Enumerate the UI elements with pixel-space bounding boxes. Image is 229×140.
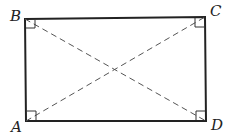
right-angle-mark-d (196, 111, 205, 120)
vertex-label-c: C (210, 2, 222, 20)
vertex-label-d: D (210, 116, 223, 134)
rectangle-diagram: B C A D (0, 0, 229, 140)
right-angle-mark-c (195, 18, 204, 27)
vertex-label-a: A (9, 118, 22, 136)
right-angle-mark-b (26, 20, 35, 28)
vertex-label-b: B (9, 7, 21, 25)
